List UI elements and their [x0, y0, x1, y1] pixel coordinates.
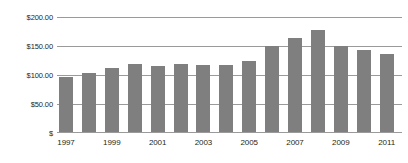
x-tick-label-2001: 2001	[149, 138, 166, 147]
bar-2011	[380, 54, 394, 132]
bar-2006	[265, 46, 279, 132]
x-axis-labels: 19971999200120032005200720092011	[57, 138, 402, 154]
y-axis-labels: $$50.00$100.00$150.00$200.00	[0, 0, 53, 163]
bar-2007	[288, 38, 302, 132]
bar-2003	[196, 65, 210, 132]
y-tick-label-100: $100.00	[27, 71, 53, 80]
x-tick-label-2011: 2011	[378, 138, 395, 147]
plot-area	[57, 17, 402, 133]
bar-2001	[151, 66, 165, 132]
bar-2004	[219, 65, 233, 132]
bar-2000	[128, 64, 142, 132]
x-tick-label-2009: 2009	[332, 138, 349, 147]
bar-2002	[174, 64, 188, 132]
y-tick-label-150: $150.00	[27, 42, 53, 51]
x-tick-label-1999: 1999	[103, 138, 120, 147]
bar-2008	[311, 30, 325, 132]
x-tick-label-2005: 2005	[240, 138, 257, 147]
y-tick-label-200: $200.00	[27, 13, 53, 22]
bar-2005	[242, 61, 256, 132]
bar-series	[57, 17, 402, 133]
x-tick-label-2003: 2003	[195, 138, 212, 147]
y-tick-label-50: $50.00	[31, 100, 53, 109]
bar-2009	[334, 46, 348, 132]
bar-1998	[82, 73, 96, 132]
bar-2010	[357, 50, 371, 132]
y-tick-label-0: $	[49, 129, 53, 138]
x-tick-label-1997: 1997	[57, 138, 74, 147]
bar-1999	[105, 68, 119, 132]
bar-chart: $$50.00$100.00$150.00$200.00 19971999200…	[0, 0, 408, 163]
bar-1997	[59, 77, 73, 132]
x-tick-label-2007: 2007	[286, 138, 303, 147]
